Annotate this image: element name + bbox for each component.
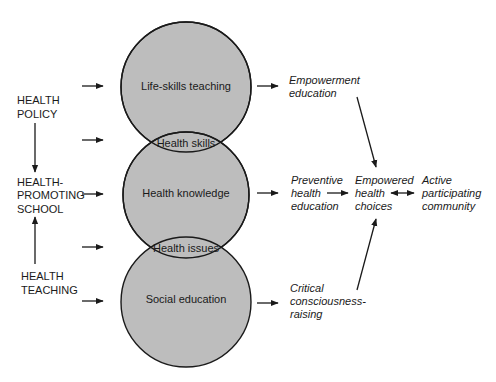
circle-label-top: Life-skills teaching	[141, 80, 231, 92]
label-active-1: Active	[421, 174, 452, 186]
label-empowerment-education-2: education	[289, 87, 337, 99]
output-arrows	[257, 86, 278, 303]
label-preventive-3: education	[291, 200, 339, 212]
label-active-3: community	[422, 200, 477, 212]
label-health-policy-1: HEALTH	[17, 94, 60, 106]
label-critical-1: Critical	[290, 282, 324, 294]
label-empowerment-education-1: Empowerment	[289, 74, 361, 86]
circle-label-bottom: Social education	[146, 293, 227, 305]
overlap-label-health-issues: Health issues	[153, 242, 220, 254]
label-preventive-2: health	[291, 187, 321, 199]
label-health-teaching-2: TEACHING	[21, 284, 78, 296]
label-hps-3: SCHOOL	[17, 203, 63, 215]
label-empowered-3: choices	[355, 200, 393, 212]
health-promoting-school-diagram: Life-skills teaching Health skills Healt…	[0, 0, 496, 382]
label-empowered-1: Empowered	[355, 174, 415, 186]
label-health-policy-2: POLICY	[17, 108, 58, 120]
label-empowered-2: health	[355, 187, 385, 199]
label-hps-1: HEALTH-	[17, 176, 64, 188]
label-active-2: participating	[421, 187, 482, 199]
label-hps-2: PROMOTING	[17, 189, 85, 201]
label-health-teaching-1: HEALTH	[21, 270, 64, 282]
arrow-critical-to-choices	[357, 219, 376, 290]
input-arrows	[82, 86, 103, 301]
label-critical-2: consciousness-	[290, 295, 366, 307]
overlap-label-health-skills: Health skills	[157, 137, 216, 149]
circle-label-middle: Health knowledge	[142, 187, 229, 199]
label-preventive-1: Preventive	[291, 174, 343, 186]
arrow-empowerment-to-choices	[357, 97, 376, 167]
label-critical-3: raising	[290, 308, 323, 320]
